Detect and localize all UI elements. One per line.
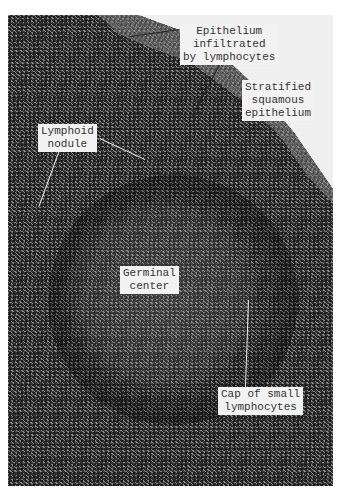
label-epithelium-infiltrated: Epithelium infiltrated by lymphocytes bbox=[180, 24, 278, 65]
label-line: Lymphoid bbox=[41, 125, 94, 138]
label-line: Epithelium bbox=[183, 25, 275, 38]
label-line: Stratified bbox=[245, 81, 311, 94]
label-line: Germinal bbox=[123, 267, 176, 280]
label-line: squamous bbox=[245, 94, 311, 107]
label-line: infiltrated bbox=[183, 38, 275, 51]
germinal-center-region bbox=[68, 200, 258, 390]
label-lymphoid-nodule: Lymphoid nodule bbox=[38, 124, 97, 152]
label-line: Cap of small bbox=[221, 388, 300, 401]
label-germinal-center: Germinal center bbox=[120, 266, 179, 294]
label-cap-small-lymphocytes: Cap of small lymphocytes bbox=[218, 387, 303, 415]
label-line: epithelium bbox=[245, 107, 311, 120]
label-line: by lymphocytes bbox=[183, 51, 275, 64]
label-stratified-squamous: Stratified squamous epithelium bbox=[242, 80, 314, 121]
label-line: nodule bbox=[41, 138, 94, 151]
label-line: lymphocytes bbox=[221, 401, 300, 414]
label-line: center bbox=[123, 280, 176, 293]
